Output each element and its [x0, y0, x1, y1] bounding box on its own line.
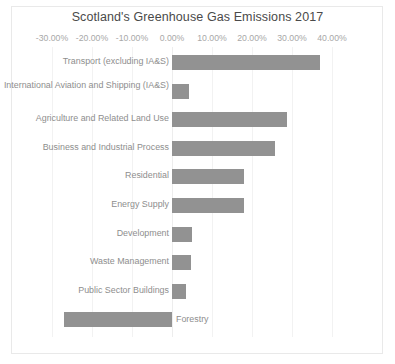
x-axis-tick-label: -20.00% — [76, 33, 108, 43]
chart-bar-row: Residential — [0, 166, 395, 195]
x-axis-tick-label: -10.00% — [116, 33, 148, 43]
x-axis-tick-label: 40.00% — [317, 33, 346, 43]
category-label: Energy Supply — [0, 199, 169, 210]
x-axis-tick-label: 10.00% — [197, 33, 226, 43]
chart-bar-row: Public Sector Buildings — [0, 281, 395, 310]
bar — [172, 255, 191, 270]
bar — [172, 227, 192, 242]
category-label: International Aviation and Shipping (IA&… — [0, 80, 169, 91]
chart-bar-row: Agriculture and Related Land Use — [0, 109, 395, 138]
chart-bar-row: Business and Industrial Process — [0, 138, 395, 167]
category-label: Public Sector Buildings — [0, 285, 169, 296]
category-label: Waste Management — [0, 256, 169, 267]
chart-bar-row: Transport (excluding IA&S) — [0, 52, 395, 81]
x-axis-tick-label: 20.00% — [237, 33, 266, 43]
category-label: Development — [0, 228, 169, 239]
bar — [172, 84, 189, 99]
x-axis-tick-label: -30.00% — [36, 33, 68, 43]
bar — [64, 312, 172, 327]
bar — [172, 141, 275, 156]
x-axis-tick-label: 30.00% — [277, 33, 306, 43]
chart-bar-row: Forestry — [0, 309, 395, 338]
category-label: Agriculture and Related Land Use — [0, 113, 169, 124]
x-axis-tick-label: 0.00% — [160, 33, 185, 43]
category-label: Residential — [0, 170, 169, 181]
bar — [172, 284, 186, 299]
category-label: Business and Industrial Process — [0, 142, 169, 153]
category-label: Transport (excluding IA&S) — [0, 56, 169, 67]
category-label: Forestry — [176, 314, 209, 325]
chart-title: Scotland's Greenhouse Gas Emissions 2017 — [0, 10, 395, 24]
bar — [172, 55, 320, 70]
bar — [172, 169, 244, 184]
chart-bar-row: Waste Management — [0, 252, 395, 281]
chart-bar-row: Energy Supply — [0, 195, 395, 224]
bar — [172, 198, 244, 213]
chart-bar-row: International Aviation and Shipping (IA&… — [0, 81, 395, 110]
bar — [172, 112, 287, 127]
chart-bar-row: Development — [0, 224, 395, 253]
bar-chart-plot-area: -30.00%-20.00%-10.00%0.00%10.00%20.00%30… — [0, 47, 395, 337]
